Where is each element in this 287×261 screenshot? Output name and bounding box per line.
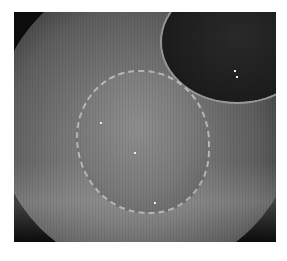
- scanline-overlay: [14, 12, 276, 242]
- endoscopy-image: [14, 12, 276, 242]
